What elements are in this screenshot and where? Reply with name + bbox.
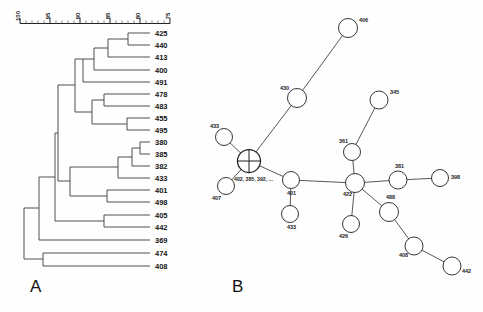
network-node-label: 442: [462, 268, 471, 274]
leaf-labels: 425 440 413 400 491 478 483 455 495 380 …: [155, 29, 168, 271]
network-node[interactable]: [346, 174, 365, 193]
leaf-label: 425: [155, 29, 168, 38]
network-node-label: 433: [287, 224, 296, 230]
leaf-label: 474: [155, 249, 168, 258]
axis-tick-labels: 100 95 90 85 80 75: [15, 10, 171, 21]
panel-b-letter: B: [232, 277, 243, 297]
network-node[interactable]: [389, 171, 407, 189]
panel-a-dendrogram: 100 95 90 85 80 75: [0, 0, 200, 290]
network-node[interactable]: [380, 203, 399, 222]
leaf-label: 495: [155, 126, 168, 135]
network-node[interactable]: [339, 19, 358, 38]
leaf-label: 369: [155, 236, 168, 245]
leaf-label: 385: [155, 150, 168, 159]
network-node[interactable]: [370, 91, 388, 109]
leaf-label: 408: [155, 262, 168, 271]
figure-canvas: 100 95 90 85 80 75: [0, 0, 483, 312]
network-node-label: 426: [339, 233, 348, 239]
leaf-label: 401: [155, 186, 168, 195]
leaf-label: 405: [155, 211, 168, 220]
axis-tick-label: 85: [105, 12, 111, 19]
network-node[interactable]: [216, 129, 233, 146]
axis-tick-label: 75: [165, 12, 171, 19]
leaf-label: 413: [155, 53, 168, 62]
axis-tick-label: 80: [135, 12, 141, 19]
network-hub-node[interactable]: [238, 150, 261, 173]
network-node[interactable]: [443, 257, 461, 275]
network-node[interactable]: [343, 216, 360, 233]
leaf-label: 455: [155, 114, 168, 123]
network-node-label: 430: [280, 85, 289, 91]
network-node-label: 361: [339, 138, 348, 144]
network-node-label: 401: [287, 190, 296, 196]
leaf-label: 380: [155, 138, 168, 147]
leaf-label: 400: [155, 66, 168, 75]
leaf-label: 433: [155, 174, 168, 183]
axis-tick-label: 90: [75, 12, 81, 19]
leaf-label: 442: [155, 223, 168, 232]
leaf-label: 382: [155, 162, 168, 171]
network-node-label: 408: [399, 252, 408, 258]
network-node-label: 381: [395, 163, 404, 169]
network-node-label: 398: [451, 174, 460, 180]
panel-a-letter: A: [30, 277, 41, 297]
leaf-label: 498: [155, 198, 168, 207]
network-node-label: 406: [359, 17, 368, 23]
axis-major-ticks: [20, 18, 170, 24]
network-node[interactable]: [344, 144, 361, 161]
network-node[interactable]: [218, 178, 235, 195]
dendrogram-branches: [24, 33, 150, 266]
network-node[interactable]: [288, 89, 307, 108]
network-node[interactable]: [282, 206, 299, 223]
leaf-label: 440: [155, 41, 168, 50]
panel-b-network: 406 430 433 402, 385, 392, ... 407 401 4…: [193, 0, 483, 290]
network-hub-label: 402, 385, 392, ...: [234, 176, 273, 182]
network-edges: [224, 28, 452, 266]
network-node-label: 488: [386, 194, 395, 200]
network-edge: [297, 28, 348, 98]
leaf-label: 483: [155, 102, 168, 111]
leaf-label: 491: [155, 78, 168, 87]
network-node[interactable]: [432, 170, 449, 187]
network-node-label: 422: [343, 191, 352, 197]
network-node-labels: 406 430 433 402, 385, 392, ... 407 401 4…: [210, 17, 471, 274]
network-node-label: 407: [212, 195, 221, 201]
axis-tick-label: 95: [45, 12, 51, 19]
network-node-label: 345: [390, 89, 399, 95]
network-node[interactable]: [283, 172, 300, 189]
leaf-label: 478: [155, 90, 168, 99]
axis-tick-label: 100: [15, 10, 21, 21]
network-node-label: 433: [210, 123, 219, 129]
